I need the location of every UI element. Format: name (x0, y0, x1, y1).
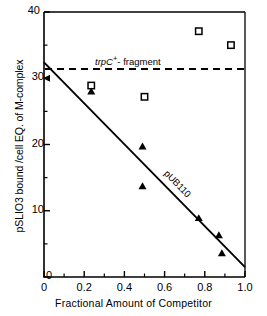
data-point-filled-triangle (218, 249, 226, 256)
x-tick-label: 0.4 (108, 281, 140, 293)
x-tick-label: 0 (28, 281, 60, 293)
x-tick-label: 1.0 (229, 281, 261, 293)
x-tick-label: 0.6 (149, 281, 181, 293)
data-point-open-square (228, 42, 234, 48)
data-point-open-square (141, 94, 147, 100)
x-tick-label: 0.8 (189, 281, 221, 293)
reference-line-label: trpC+- fragment (95, 54, 161, 67)
data-point-open-square (196, 28, 202, 34)
data-point-filled-triangle (138, 143, 146, 150)
x-axis-label: Fractional Amount of Competitor (0, 297, 267, 309)
y-tick-label: 10 (22, 203, 44, 215)
figure-container: pSLIO3 bound /cell EQ. of M-complex Frac… (0, 0, 267, 316)
y-tick-label: 30 (22, 70, 44, 82)
data-point-filled-triangle (138, 182, 146, 189)
x-tick-label: 0.2 (68, 281, 100, 293)
y-tick-label: 20 (22, 137, 44, 149)
data-point-filled-triangle (215, 231, 223, 238)
y-tick-label: 40 (18, 4, 40, 16)
y-tick-label: 0 (30, 269, 52, 281)
